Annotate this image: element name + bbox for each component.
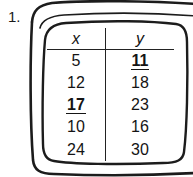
table-cell-y: 11 <box>106 50 175 73</box>
problem-number: 1. <box>8 9 21 25</box>
xy-table: x y 5111218172310162430 <box>47 28 174 161</box>
table-cell-x: 5 <box>47 50 106 73</box>
value: 12 <box>66 72 86 94</box>
column-header-y: y <box>106 28 175 50</box>
table-row: 1016 <box>47 116 174 138</box>
table-cell-y: 23 <box>106 94 175 116</box>
table-row: 2430 <box>47 138 174 161</box>
value: 23 <box>130 94 150 116</box>
value: 24 <box>66 139 86 161</box>
xy-table-container: x y 5111218172310162430 <box>47 28 173 163</box>
table-cell-x: 12 <box>47 72 106 94</box>
table-cell-x: 17 <box>47 94 106 116</box>
table-cell-y: 16 <box>106 116 175 138</box>
table-header: x y <box>47 28 174 50</box>
table-row: 1723 <box>47 94 174 116</box>
table-cell-y: 30 <box>106 138 175 161</box>
value: 16 <box>130 116 150 138</box>
highlighted-value: 11 <box>131 52 150 70</box>
outer-frame-top-inner <box>40 13 193 28</box>
table-cell-y: 18 <box>106 72 175 94</box>
value: 30 <box>130 139 150 161</box>
outer-frame-top <box>32 1 193 22</box>
table-row: 511 <box>47 50 174 73</box>
table-row: 1218 <box>47 72 174 94</box>
worksheet-screenshot: 1. x y 5111218172310162430 <box>0 0 193 177</box>
value: 5 <box>71 50 82 72</box>
table-cell-x: 24 <box>47 138 106 161</box>
column-header-x: x <box>47 28 106 50</box>
value: 10 <box>66 116 86 138</box>
table-body: 5111218172310162430 <box>47 50 174 162</box>
highlighted-value: 17 <box>66 96 86 114</box>
table-cell-x: 10 <box>47 116 106 138</box>
table-header-row: x y <box>47 28 174 50</box>
value: 18 <box>130 72 150 94</box>
